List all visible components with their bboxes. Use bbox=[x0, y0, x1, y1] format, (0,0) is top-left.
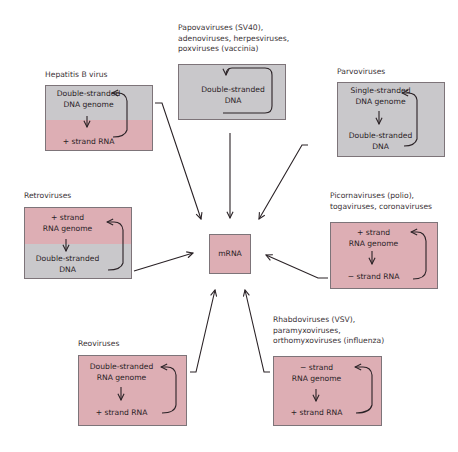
rhabdo-to-mrna-arrow bbox=[245, 290, 270, 372]
hepatitis-b-to-mrna-arrow bbox=[155, 103, 201, 219]
hepatitis-b-loop-arrow bbox=[112, 93, 127, 137]
rhabdo-loop-arrow bbox=[355, 367, 372, 413]
arrows-layer bbox=[0, 0, 458, 452]
papova-loop-arrow bbox=[223, 68, 272, 113]
picorna-loop-arrow bbox=[411, 232, 426, 279]
parvo-loop-arrow bbox=[402, 93, 417, 146]
picorna-to-mrna-arrow bbox=[266, 255, 328, 278]
retro-loop-arrow bbox=[107, 222, 123, 270]
reo-to-mrna-arrow bbox=[190, 290, 215, 372]
retro-to-mrna-arrow bbox=[134, 253, 193, 271]
parvo-to-mrna-arrow bbox=[259, 145, 308, 219]
reo-loop-arrow bbox=[161, 367, 176, 413]
